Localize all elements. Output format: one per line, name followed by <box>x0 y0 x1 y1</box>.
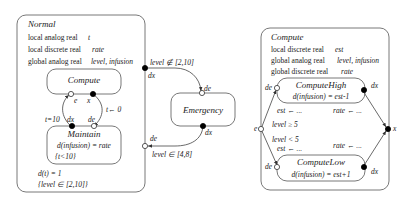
emergency-mode: Emergency level ∉ [2,10] dx de dx de lev… <box>142 58 235 159</box>
normal-decl-1-vars: rate <box>92 45 105 54</box>
port-label-de-bottom: de <box>150 134 158 143</box>
compute-high-title: ComputeHigh <box>296 80 347 90</box>
normal-decl-1-kind: local discrete real <box>28 45 81 54</box>
edge-low-to-exit <box>363 131 386 167</box>
compute-decl-1-kind: global analog real <box>271 56 325 65</box>
port-label-e: e <box>254 124 258 133</box>
compute-entry-port <box>68 91 73 96</box>
normal-mode: Normal local analog real t local discret… <box>17 15 145 192</box>
low-port-label-dx: dx <box>371 167 379 176</box>
compute-submode-title: Compute <box>68 75 101 85</box>
normal-decl-2-vars: level, infusion <box>91 57 133 66</box>
compute-high-flow: d(infusion) = est-1 <box>293 92 349 101</box>
maintain-entry-port <box>91 123 96 128</box>
normal-decl-0-vars: t <box>88 33 91 42</box>
maintain-flow: d(infusion) = rate <box>57 141 111 150</box>
emergency-title: Emergency <box>182 105 223 115</box>
compute-exit-port <box>90 91 95 96</box>
compute-decl-1-vars: level, infusion <box>337 56 379 65</box>
compute-exit-port-x <box>385 126 390 131</box>
high-exit-port <box>361 87 366 92</box>
normal-exit-port <box>142 65 147 70</box>
compute-mode: Compute local discrete real est global a… <box>254 28 397 190</box>
reset-t: t← 0 <box>106 105 121 114</box>
assign-rate-low: rate ← ... <box>333 141 362 150</box>
normal-invariant: {level ∈ [2,10]} <box>38 180 88 189</box>
compute-entry-port-e <box>258 126 263 131</box>
port-label-dx-bottom: dx <box>205 128 213 137</box>
guard-to-emergency: level ∉ [2,10] <box>150 58 194 67</box>
compute-decl-2-kind: global discrete real <box>271 67 328 76</box>
compute-low-title: ComputeLow <box>297 157 345 167</box>
maintain-exit-port <box>69 123 74 128</box>
guard-low: level < 5 <box>272 135 299 144</box>
compute-decl-0-vars: est <box>335 45 344 54</box>
compute-low-flow: d(infusion) = est+1 <box>292 170 351 179</box>
high-port-label-dx: dx <box>371 81 379 90</box>
port-label-de: de <box>88 115 96 124</box>
compute-decl-0-kind: local discrete real <box>271 45 324 54</box>
port-label-dx: dx <box>67 115 75 124</box>
high-entry-port <box>274 85 279 90</box>
hybrid-automaton-diagram: Normal local analog real t local discret… <box>0 0 414 203</box>
assign-rate-high: rate ← ... <box>333 106 362 115</box>
high-port-label-de: de <box>265 83 273 92</box>
guard-high: level ≥ 5 <box>272 120 298 129</box>
normal-title: Normal <box>27 19 56 29</box>
port-label-x: x <box>86 96 91 105</box>
low-entry-port <box>274 164 279 169</box>
low-exit-port <box>361 164 366 169</box>
port-label-de-top: de <box>204 84 212 93</box>
guard-t: t=10 <box>45 115 60 124</box>
normal-entry-port <box>142 143 147 148</box>
maintain-title: Maintain <box>67 129 101 139</box>
compute-decl-2-vars: rate <box>341 67 354 76</box>
edge-high-to-exit <box>363 91 386 127</box>
normal-decl-2-kind: global analog real <box>28 57 82 66</box>
guard-to-normal: level ∈ [4,8] <box>152 150 192 159</box>
compute-title: Compute <box>271 32 304 42</box>
low-port-label-de: de <box>265 162 273 171</box>
port-label-e: e <box>74 96 78 105</box>
assign-est-low: est ← ... <box>277 144 302 153</box>
assign-est-high: est ← ... <box>277 106 302 115</box>
port-label-dx-top: dx <box>148 71 156 80</box>
port-label-x: x <box>392 124 397 133</box>
normal-flow-t: d(t) = 1 <box>38 169 61 178</box>
maintain-invariant: {t<10} <box>55 152 76 161</box>
normal-decl-0-kind: local analog real <box>28 33 78 42</box>
